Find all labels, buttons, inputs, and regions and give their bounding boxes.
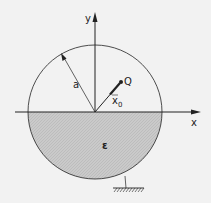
point-q-dot [119, 80, 123, 84]
radius-arrow-icon [61, 53, 67, 61]
vector-subscript: 0 [118, 101, 122, 109]
ground-support [113, 176, 144, 192]
x-axis-arrow-icon [191, 110, 201, 115]
point-q-label: Q [124, 76, 132, 87]
diagram-canvas: y x a Q x 0 ε [0, 0, 211, 203]
region-label: ε [102, 140, 108, 151]
x-axis-label: x [191, 117, 197, 128]
radius-label: a [73, 79, 79, 90]
y-axis-label: y [85, 13, 91, 24]
y-axis-arrow-icon [93, 12, 98, 22]
vector-x0-bold [110, 83, 120, 95]
